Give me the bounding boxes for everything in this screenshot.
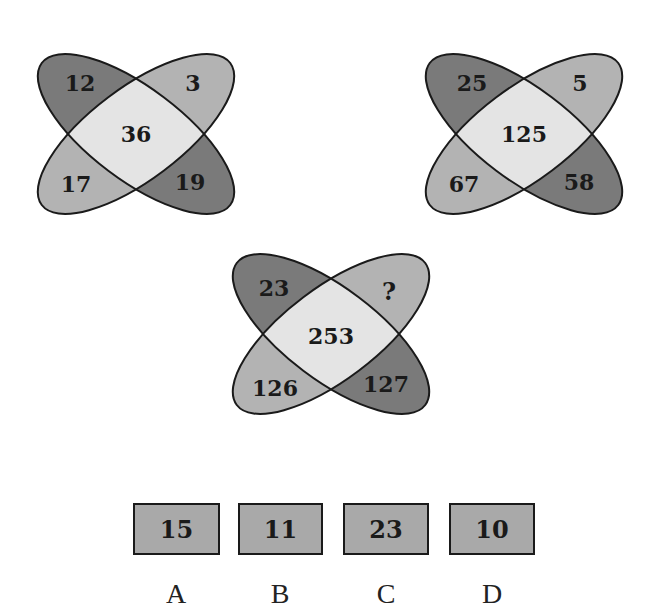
- value-bottom-left: 17: [61, 171, 92, 197]
- option-d-box[interactable]: 10: [449, 503, 535, 555]
- unknown-value-top-right: ?: [382, 277, 396, 306]
- value-top-right: 5: [572, 70, 587, 96]
- option-a-box[interactable]: 15: [133, 503, 220, 555]
- option-d-label: D: [462, 578, 522, 610]
- option-c-box[interactable]: 23: [343, 503, 429, 555]
- option-b-label: B: [250, 578, 310, 610]
- value-center: 125: [501, 121, 547, 147]
- diagram-canvas: 12 3 36 17 19 25 5 125 67 58 23 ? 253 12…: [0, 0, 666, 613]
- value-center: 36: [121, 121, 152, 147]
- value-bottom-left: 126: [252, 375, 298, 401]
- venn-diagram-3: 23 ? 253 126 127: [209, 226, 453, 442]
- option-b-box[interactable]: 11: [238, 503, 323, 555]
- value-top-left: 12: [65, 70, 96, 96]
- option-a-value: 15: [160, 515, 193, 544]
- value-center: 253: [308, 323, 354, 349]
- option-d-value: 10: [475, 515, 508, 544]
- value-top-right: 3: [185, 70, 200, 96]
- venn-diagram-1: 12 3 36 17 19: [14, 26, 258, 242]
- option-c-value: 23: [369, 515, 402, 544]
- value-top-left: 23: [259, 275, 290, 301]
- value-top-left: 25: [457, 70, 488, 96]
- option-a-label: A: [146, 578, 206, 610]
- value-bottom-right: 19: [175, 169, 206, 195]
- venn-diagram-2: 25 5 125 67 58: [402, 26, 646, 242]
- value-bottom-left: 67: [449, 171, 480, 197]
- option-c-label: C: [356, 578, 416, 610]
- value-bottom-right: 58: [564, 169, 595, 195]
- option-b-value: 11: [264, 515, 297, 544]
- value-bottom-right: 127: [363, 371, 409, 397]
